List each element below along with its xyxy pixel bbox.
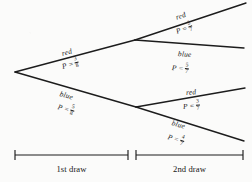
prob-symbol-second-lower-blue: P = — [167, 133, 180, 143]
branch-second-lower-blue — [136, 107, 244, 141]
prob-symbol-second-upper-red: P = — [175, 24, 188, 35]
branch-label-second-lower-red-outcome: red — [186, 88, 197, 96]
prob-symbol-second-lower-red: P = — [183, 102, 195, 110]
fraction-denominator: 7 — [196, 104, 200, 111]
branch-label-second-upper-blue-outcome: blue — [178, 50, 192, 59]
scale-label-second-draw: 2nd draw — [136, 164, 243, 174]
branch-label-second-lower-red-probability: P = 3 7 — [182, 99, 200, 113]
scale-label-first-draw: 1st draw — [15, 164, 128, 174]
probability-tree-figure — [0, 0, 252, 182]
branch-second-upper-blue — [135, 40, 244, 48]
scale-bar-second-draw — [136, 150, 243, 160]
prob-symbol-second-upper-blue: P = — [172, 64, 184, 72]
scale-bar-first-draw — [15, 150, 128, 160]
branch-first-blue — [15, 72, 136, 107]
prob-symbol-first-blue: P = — [57, 103, 70, 113]
prob-symbol-first-red: P = — [61, 60, 74, 70]
branch-label-second-upper-blue-probability: P = 5 7 — [171, 61, 189, 75]
fraction-denominator: 7 — [184, 68, 188, 75]
